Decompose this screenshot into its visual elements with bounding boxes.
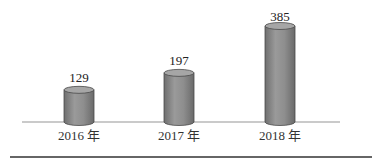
data-label-2017: 197 xyxy=(149,54,209,68)
bar-2018 xyxy=(265,23,295,126)
bar-2017 xyxy=(164,69,194,125)
x-tick-label-2017: 2017 年 xyxy=(139,129,219,143)
data-label-2018: 385 xyxy=(250,10,310,24)
cylinder-bar-chart: 129 197 385 2016 年 2017 年 2018 年 xyxy=(0,0,380,164)
x-tick-label-2018: 2018 年 xyxy=(240,129,320,143)
data-label-2016: 129 xyxy=(49,71,109,85)
x-tick-label-2016: 2016 年 xyxy=(39,129,119,143)
bar-2016 xyxy=(64,86,94,125)
